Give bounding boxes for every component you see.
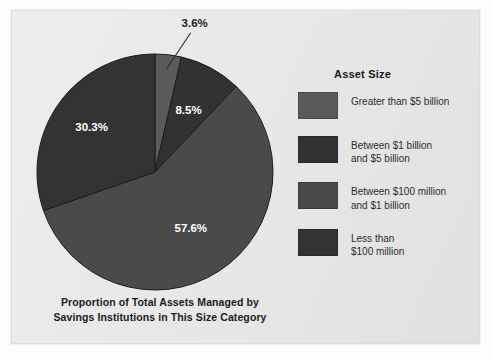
legend-item: Less than$100 million [298,229,476,258]
legend-item: Greater than $5 billion [298,92,476,119]
legend-label: Between $1 billionand $5 billion [351,136,432,165]
legend-label: Less than$100 million [351,229,404,258]
legend-label-line-1: Less than [351,233,394,244]
legend-item: Between $100 millionand $1 billion [298,182,476,211]
legend-swatch [298,136,338,163]
legend-title: Asset Size [334,68,476,80]
legend-label: Between $100 millionand $1 billion [351,182,446,211]
legend-label-line-1: Greater than $5 billion [351,96,449,107]
legend-label-line-1: Between $100 million [351,186,446,197]
legend-swatch [298,182,338,209]
caption-line-2: Savings Institutions in This Size Catego… [30,310,290,325]
pie-slices [37,54,273,290]
chart-caption: Proportion of Total Assets Managed by Sa… [30,295,290,325]
legend-item: Between $1 billionand $5 billion [298,136,476,165]
legend-label-line-1: Between $1 billion [351,140,432,151]
pie-slice-value-label: 57.6% [174,222,207,234]
legend-swatch [298,229,338,256]
pie-slice-value-label: 8.5% [175,104,201,116]
legend-label: Greater than $5 billion [351,92,449,108]
chart-legend: Asset Size Greater than $5 billionBetwee… [298,68,476,275]
legend-label-line-2: and $5 billion [351,152,432,165]
legend-swatch [298,92,338,119]
legend-label-line-2: and $1 billion [351,199,446,212]
pie-callout-value-label: 3.6% [182,17,208,29]
legend-label-line-2: $100 million [351,245,404,258]
caption-line-1: Proportion of Total Assets Managed by [30,295,290,310]
legend-rows: Greater than $5 billionBetween $1 billio… [298,92,476,258]
chart-page: 8.5%57.6%30.3% 3.6% Proportion of Total … [0,0,493,360]
pie-slice-value-label: 30.3% [75,121,108,133]
